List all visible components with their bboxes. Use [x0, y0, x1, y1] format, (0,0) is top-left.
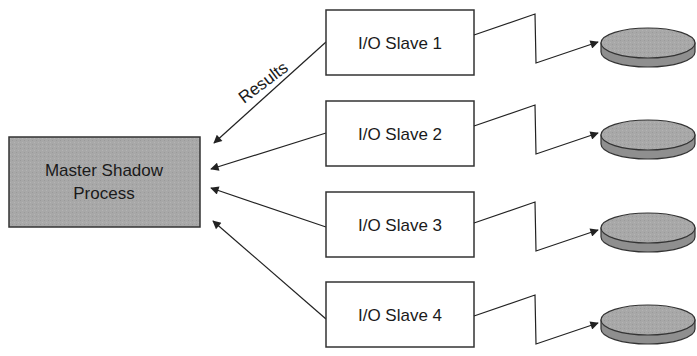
link-slave3-to-disk3 — [474, 202, 598, 251]
io-slave-4-node: I/O Slave 4 — [326, 282, 474, 347]
results-label: Results — [235, 58, 292, 107]
disk-2 — [601, 120, 695, 159]
io-slave-2-label: I/O Slave 2 — [358, 125, 442, 144]
io-slave-2-node: I/O Slave 2 — [326, 101, 474, 166]
master-label-line1: Master Shadow — [45, 161, 164, 180]
io-slave-4-label: I/O Slave 4 — [358, 306, 442, 325]
io-slave-3-label: I/O Slave 3 — [358, 216, 442, 235]
arrow-slave1-to-master — [214, 42, 326, 143]
disk-1 — [601, 28, 695, 67]
io-slave-1-label: I/O Slave 1 — [358, 34, 442, 53]
master-label-line2: Process — [73, 184, 134, 203]
link-slave4-to-disk4 — [474, 295, 598, 344]
arrow-slave3-to-master — [211, 188, 326, 227]
io-slave-1-node: I/O Slave 1 — [326, 10, 474, 75]
disk-3 — [601, 213, 695, 252]
disk-4 — [601, 305, 695, 344]
disk-links — [474, 14, 598, 344]
master-shadow-process-node: Master Shadow Process — [9, 137, 200, 227]
link-slave2-to-disk2 — [474, 105, 598, 154]
link-slave1-to-disk1 — [474, 14, 598, 63]
arrow-slave2-to-master — [211, 133, 326, 169]
arrow-slave4-to-master — [213, 221, 326, 319]
io-slave-3-node: I/O Slave 3 — [326, 192, 474, 257]
io-slave-diagram: Master Shadow Process Results I/O Slave … — [0, 0, 697, 356]
